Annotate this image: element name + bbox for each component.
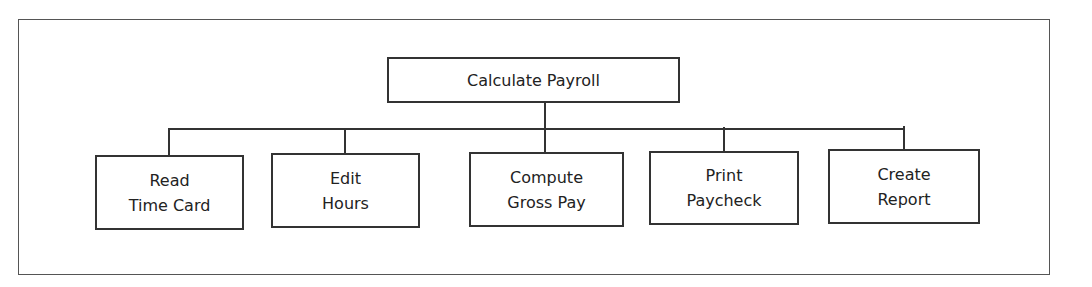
child-connector-3 bbox=[544, 128, 546, 153]
child-connector-5 bbox=[903, 126, 905, 150]
child-node-line1: Edit bbox=[330, 166, 361, 191]
child-node-line1: Compute bbox=[510, 165, 583, 190]
child-node-line1: Read bbox=[149, 168, 189, 193]
child-node-read-time-card: Read Time Card bbox=[95, 155, 244, 230]
child-node-create-report: Create Report bbox=[828, 149, 980, 224]
child-connector-1 bbox=[168, 128, 170, 156]
child-node-print-paycheck: Print Paycheck bbox=[649, 151, 799, 225]
root-node-calculate-payroll: Calculate Payroll bbox=[387, 57, 680, 103]
root-connector bbox=[544, 103, 546, 129]
child-node-line2: Hours bbox=[322, 191, 369, 216]
child-node-line1: Create bbox=[877, 162, 930, 187]
child-node-line1: Print bbox=[706, 163, 743, 188]
root-node-label: Calculate Payroll bbox=[467, 68, 600, 93]
child-node-compute-gross-pay: Compute Gross Pay bbox=[469, 152, 624, 227]
child-node-line2: Time Card bbox=[129, 193, 211, 218]
child-node-line2: Paycheck bbox=[686, 188, 761, 213]
child-node-line2: Gross Pay bbox=[507, 190, 585, 215]
child-connector-2 bbox=[344, 128, 346, 154]
child-connector-4 bbox=[723, 127, 725, 152]
horizontal-connector bbox=[168, 128, 904, 130]
child-node-edit-hours: Edit Hours bbox=[271, 153, 420, 228]
child-node-line2: Report bbox=[877, 187, 930, 212]
